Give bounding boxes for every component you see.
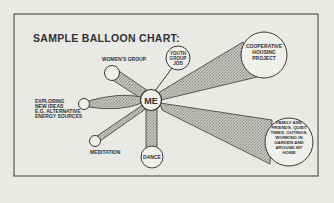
label-me: ME (144, 96, 158, 106)
balloon-womens-group (105, 66, 120, 81)
chart-title: SAMPLE BALLOON CHART: (33, 32, 180, 44)
connector-family-friends (160, 103, 272, 164)
connector-exploring (88, 95, 142, 109)
balloon-chart: SAMPLE BALLOON CHART: ME WOMEN'S GROUP Y… (0, 0, 334, 203)
label-womens-group: WOMEN'S GROUP (102, 56, 147, 62)
label-dance: DANCE (143, 154, 161, 160)
svg-text:PROJECT: PROJECT (252, 55, 276, 61)
balloon-meditation (90, 136, 101, 147)
label-exploring: EXPLORING NEW IDEAS E.G. ALTERNATIVE ENE… (35, 98, 83, 119)
balloon-chart-canvas: SAMPLE BALLOON CHART: ME WOMEN'S GROUP Y… (0, 0, 334, 203)
label-family-friends: FAMILY AND FRIENDS, QUIET TIMES, OUTINGS… (270, 120, 307, 155)
connector-meditation (97, 104, 147, 141)
label-meditation: MEDITATION (90, 149, 121, 155)
svg-text:ENERGY SOURCES: ENERGY SOURCES (35, 113, 83, 119)
connector-dance (146, 108, 157, 148)
svg-text:JOB: JOB (173, 61, 183, 66)
svg-text:HOME: HOME (282, 150, 295, 155)
